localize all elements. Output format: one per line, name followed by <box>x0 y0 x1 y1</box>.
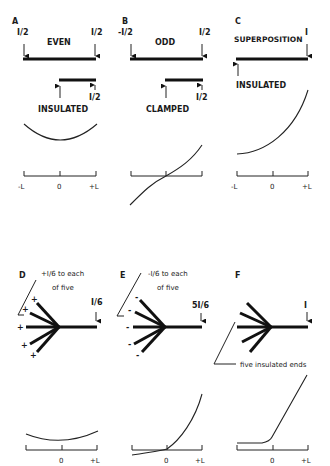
axis <box>132 445 202 450</box>
sign: + <box>30 351 37 360</box>
panel-b: B -I/2 ODD I/2 I/2 CLAMPED <box>118 17 210 205</box>
d-curve <box>26 431 98 440</box>
half-load-label: I/2 <box>89 93 100 102</box>
axis-right-label: +L <box>90 457 100 465</box>
superposition-diagram: A I/2 EVEN I/2 I/2 INSULATED -L 0 +L B -… <box>0 0 330 466</box>
spoke <box>135 312 165 327</box>
spoke <box>142 327 165 352</box>
spoke <box>37 303 59 327</box>
axis-right-label: +L <box>301 457 311 465</box>
axis <box>131 171 202 176</box>
caption: five insulated ends <box>240 361 307 369</box>
panel-title: SUPERPOSITION <box>234 35 303 44</box>
axis-left-label: -L <box>18 183 25 191</box>
sign: + <box>21 341 28 350</box>
panel-d: D +I/6 to each of five I/6 + + + + + 0 +… <box>17 270 103 465</box>
sign: - <box>128 306 131 315</box>
insulated-label: INSULATED <box>38 105 89 114</box>
panel-e: E -I/6 to each of five 5I/6 - - - - - 0 … <box>117 270 209 465</box>
panel-letter: C <box>235 17 241 26</box>
half-load-label: I/2 <box>196 93 207 102</box>
panel-letter: F <box>235 271 240 280</box>
panel-f: F I five insulated ends 0 +L <box>214 271 311 465</box>
insulated-label: INSULATED <box>236 81 287 90</box>
panel-letter: A <box>12 17 19 26</box>
even-curve <box>24 124 97 140</box>
axis <box>24 171 96 176</box>
right-load-label: I/6 <box>91 298 103 307</box>
left-load-label: -I/2 <box>118 28 133 37</box>
axis-center-label: 0 <box>270 457 274 465</box>
axis <box>26 445 97 450</box>
axis <box>237 171 308 176</box>
panel-a: A I/2 EVEN I/2 I/2 INSULATED -L 0 +L <box>12 17 102 191</box>
right-load-label: I/2 <box>199 28 210 37</box>
caption-line-1: -I/6 to each <box>148 270 188 278</box>
sign: - <box>126 323 129 332</box>
axis <box>237 445 308 450</box>
axis-left-label: -L <box>231 183 238 191</box>
pointer-line <box>214 322 236 364</box>
panel-letter: D <box>19 271 26 280</box>
clamped-label: CLAMPED <box>146 105 189 114</box>
axis-center-label: 0 <box>164 457 168 465</box>
sign: - <box>135 293 138 302</box>
axis-right-label: +L <box>302 183 312 191</box>
panel-letter: B <box>122 17 128 26</box>
spoke <box>140 300 165 327</box>
sign: - <box>136 351 139 360</box>
spoke <box>240 313 271 327</box>
sign: + <box>17 323 24 332</box>
panel-c: C SUPERPOSITION I INSULATED -L 0 +L <box>231 17 312 191</box>
axis-center-label: 0 <box>57 183 61 191</box>
spoke <box>30 313 59 327</box>
right-load-label: I <box>304 301 307 310</box>
f-curve <box>237 375 307 443</box>
caption-line-2: of five <box>157 284 179 292</box>
right-load-label: I/2 <box>91 28 102 37</box>
superposition-curve <box>237 90 308 154</box>
left-load-label: I/2 <box>17 28 28 37</box>
axis-center-label: 0 <box>59 457 63 465</box>
panel-title: ODD <box>155 38 175 47</box>
sign: - <box>128 340 131 349</box>
spoke <box>247 303 271 327</box>
right-load-label: I <box>305 28 308 37</box>
panel-title: EVEN <box>47 38 71 47</box>
caption-line-2: of five <box>52 284 74 292</box>
sign: + <box>31 295 38 304</box>
sign: + <box>22 305 29 314</box>
right-load-label: 5I/6 <box>192 301 209 310</box>
axis-right-label: +L <box>195 457 205 465</box>
spoke <box>134 327 165 344</box>
axis-right-label: +L <box>89 183 99 191</box>
caption-line-1: +I/6 to each <box>41 270 84 278</box>
axis-center-label: 0 <box>270 183 274 191</box>
panel-letter: E <box>120 271 125 280</box>
